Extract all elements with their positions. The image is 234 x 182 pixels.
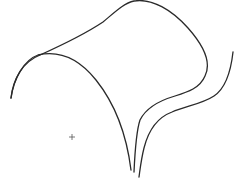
drawing-canvas [0,0,234,182]
curve-inner-left-arch [11,54,131,170]
cross-marker-icon [69,134,75,140]
curve-outer-top-arc-and-loop [11,1,208,172]
curve-outer-right-s-curve [139,52,233,177]
curve-drawing [0,0,234,182]
